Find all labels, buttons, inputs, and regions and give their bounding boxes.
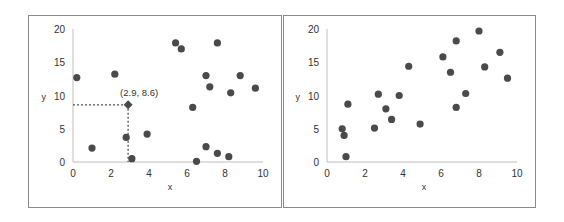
left-data-point bbox=[193, 158, 200, 165]
right-x-tick: 0 bbox=[324, 168, 330, 179]
left-y-tick: 20 bbox=[54, 24, 66, 35]
left-x-label: x bbox=[168, 182, 173, 192]
left-x-tick: 10 bbox=[257, 168, 269, 179]
left-data-point bbox=[123, 134, 130, 141]
left-data-point bbox=[202, 72, 209, 79]
left-y-tick: 0 bbox=[59, 157, 65, 168]
left-data-point bbox=[214, 39, 221, 46]
left-y-tick: 10 bbox=[54, 91, 66, 102]
right-data-point bbox=[504, 75, 511, 82]
left-data-point bbox=[252, 85, 259, 92]
right-data-point bbox=[371, 124, 378, 131]
right-data-point bbox=[341, 132, 348, 139]
right-data-point bbox=[344, 101, 351, 108]
left-x-tick: 4 bbox=[146, 168, 152, 179]
left-x-tick: 2 bbox=[108, 168, 114, 179]
right-x-tick: 2 bbox=[362, 168, 368, 179]
right-y-tick: 0 bbox=[313, 157, 319, 168]
right-data-point bbox=[447, 69, 454, 76]
left-y-tick: 15 bbox=[54, 57, 66, 68]
charts-canvas: 024681005101520xy(2.9, 8.6)0246810051015… bbox=[0, 0, 564, 222]
right-data-point bbox=[339, 125, 346, 132]
left-data-point bbox=[111, 71, 118, 78]
right-x-label: x bbox=[422, 182, 427, 192]
right-data-point bbox=[481, 63, 488, 70]
right-data-point bbox=[453, 37, 460, 44]
left-x-tick: 8 bbox=[222, 168, 228, 179]
right-x-tick: 8 bbox=[476, 168, 482, 179]
left-data-point bbox=[225, 153, 232, 160]
right-data-point bbox=[417, 120, 424, 127]
left-x-tick: 6 bbox=[184, 168, 190, 179]
left-data-point bbox=[237, 72, 244, 79]
left-data-point bbox=[227, 89, 234, 96]
right-data-point bbox=[453, 104, 460, 111]
left-data-point bbox=[189, 104, 196, 111]
left-y-tick: 5 bbox=[59, 124, 65, 135]
right-x-tick: 4 bbox=[400, 168, 406, 179]
right-data-point bbox=[382, 105, 389, 112]
right-x-tick: 6 bbox=[438, 168, 444, 179]
right-data-point bbox=[496, 49, 503, 56]
right-data-point bbox=[439, 53, 446, 60]
right-data-point bbox=[462, 90, 469, 97]
left-data-point bbox=[88, 144, 95, 151]
right-y-label: y bbox=[296, 92, 301, 102]
right-y-tick: 5 bbox=[313, 124, 319, 135]
left-data-point bbox=[178, 45, 185, 52]
right-data-point bbox=[388, 116, 395, 123]
left-data-point bbox=[73, 74, 80, 81]
right-data-point bbox=[342, 153, 349, 160]
right-data-point bbox=[396, 92, 403, 99]
left-data-point bbox=[202, 143, 209, 150]
left-data-point bbox=[172, 39, 179, 46]
right-y-tick: 15 bbox=[308, 57, 320, 68]
left-data-point bbox=[128, 155, 135, 162]
right-data-point bbox=[375, 91, 382, 98]
right-data-point bbox=[475, 27, 482, 34]
left-y-label: y bbox=[42, 92, 47, 102]
right-x-tick: 10 bbox=[511, 168, 523, 179]
left-data-point bbox=[144, 130, 151, 137]
left-x-tick: 0 bbox=[70, 168, 76, 179]
highlight-diamond-marker bbox=[124, 100, 133, 109]
right-y-tick: 20 bbox=[308, 24, 320, 35]
right-y-tick: 10 bbox=[308, 91, 320, 102]
left-data-point bbox=[206, 83, 213, 90]
right-data-point bbox=[405, 63, 412, 70]
highlight-label: (2.9, 8.6) bbox=[120, 87, 158, 98]
left-data-point bbox=[214, 150, 221, 157]
